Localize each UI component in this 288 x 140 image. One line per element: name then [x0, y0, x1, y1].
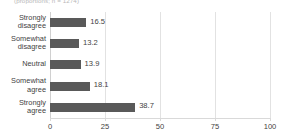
bar-row: 13.9 — [50, 54, 270, 75]
x-tick-label-0: 0 — [48, 122, 52, 131]
bar[interactable] — [50, 82, 90, 91]
tickmark-25 — [105, 118, 106, 121]
bar-value-label: 18.1 — [94, 80, 109, 89]
category-label: Neutral — [0, 60, 46, 68]
tickmark-50 — [160, 118, 161, 121]
tickmark-75 — [215, 118, 216, 121]
bar[interactable] — [50, 39, 79, 48]
bar[interactable] — [50, 103, 135, 112]
x-tick-label-75: 75 — [211, 122, 219, 131]
bar-row: 18.1 — [50, 76, 270, 97]
category-label: Somewhat agree — [0, 77, 46, 94]
chart-caption: (proportions; n = 1274) — [14, 0, 79, 4]
category-label: Strongly agree — [0, 99, 46, 116]
bar-value-label: 38.7 — [139, 101, 154, 110]
bar-row: 13.2 — [50, 33, 270, 54]
category-label: Strongly disagree — [0, 14, 46, 31]
x-tick-label-50: 50 — [156, 122, 164, 131]
tickmark-100 — [270, 118, 271, 121]
bar-value-label: 13.9 — [85, 59, 100, 68]
bar[interactable] — [50, 60, 81, 69]
bar-row: 16.5 — [50, 12, 270, 33]
x-tick-label-25: 25 — [101, 122, 109, 131]
bar-value-label: 16.5 — [90, 17, 105, 26]
category-label: Somewhat disagree — [0, 35, 46, 52]
plot-area: 16.513.213.918.138.7 — [50, 12, 270, 118]
bar[interactable] — [50, 18, 86, 27]
bar-chart: (proportions; n = 1274) 16.513.213.918.1… — [0, 0, 288, 140]
bar-value-label: 13.2 — [83, 38, 98, 47]
tickmark-0 — [50, 118, 51, 121]
bar-row: 38.7 — [50, 97, 270, 118]
gridline-100 — [270, 12, 271, 118]
x-tick-label-100: 100 — [264, 122, 277, 131]
